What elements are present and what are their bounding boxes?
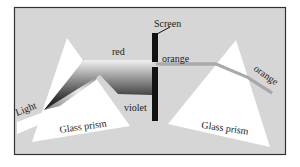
- screen-lower: [152, 67, 158, 121]
- label-red: red: [112, 46, 125, 57]
- screen-upper: [152, 33, 158, 62]
- label-orange-left: orange: [162, 53, 190, 64]
- prism-diagram: Screen red violet orange orange Light Gl…: [0, 0, 300, 167]
- label-screen: Screen: [154, 18, 181, 29]
- label-violet: violet: [124, 102, 147, 113]
